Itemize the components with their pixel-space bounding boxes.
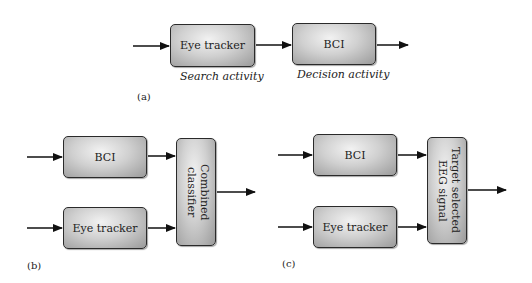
panel-c-eye-tracker-block: Eye tracker [313, 206, 397, 248]
panel-b-eye-tracker-block: Eye tracker [63, 207, 147, 249]
decision-activity-caption: Decision activity [297, 68, 389, 81]
block-label: Eye tracker [322, 221, 387, 234]
combined-classifier-block: Combined classifier [176, 138, 216, 246]
block-label: Eye tracker [72, 222, 137, 235]
panel-b-bci-block: BCI [63, 136, 147, 178]
block-label: BCI [94, 151, 115, 164]
panel-a-bci-block: BCI [292, 23, 376, 65]
block-label: BCI [344, 149, 365, 162]
block-label: Combined classifier [181, 139, 211, 245]
block-label: Eye tracker [180, 39, 245, 52]
panel-c-bci-block: BCI [313, 134, 397, 176]
search-activity-caption: Search activity [180, 70, 264, 83]
panel-c-label: (c) [282, 258, 295, 269]
panel-b-label: (b) [27, 260, 41, 271]
target-selected-eeg-block: Target selected EEG signal [427, 137, 467, 244]
panel-a-label: (a) [137, 91, 151, 102]
block-label: BCI [323, 38, 344, 51]
panel-a-eye-tracker-block: Eye tracker [170, 24, 255, 67]
block-label: Target selected EEG signal [432, 138, 462, 243]
